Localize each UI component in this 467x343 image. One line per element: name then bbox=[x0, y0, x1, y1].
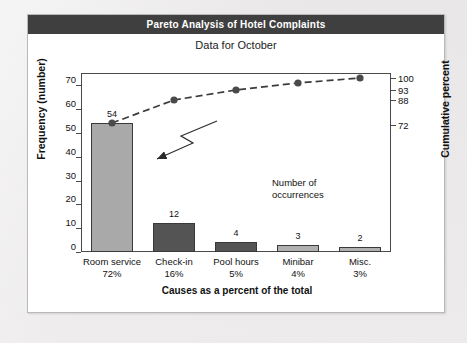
annotation-layer: Number of occurrences bbox=[81, 73, 391, 252]
y2-tick-label-72: 72 bbox=[398, 120, 426, 131]
y-axis-left-title: Frequency (number) bbox=[35, 49, 47, 169]
y-tick-label-70: 70 bbox=[52, 74, 76, 85]
y2-tick-label-100: 100 bbox=[398, 73, 426, 84]
y-tick-label-30: 30 bbox=[52, 170, 76, 181]
x-tick-pool-hours-name: Pool hours bbox=[205, 256, 267, 268]
y-tick-label-0: 0 bbox=[52, 241, 76, 252]
y-tick-label-40: 40 bbox=[52, 146, 76, 157]
x-tick-room-service: Room service 72% bbox=[81, 256, 143, 280]
x-axis-title: Causes as a percent of the total bbox=[28, 285, 446, 296]
x-tick-minibar: Minibar 4% bbox=[267, 256, 329, 280]
x-tick-pool-hours: Pool hours 5% bbox=[205, 256, 267, 280]
y2-tick-mark-72 bbox=[391, 125, 396, 126]
y-tick-label-20: 20 bbox=[52, 193, 76, 204]
chart-card: Pareto Analysis of Hotel Complaints Data… bbox=[27, 14, 445, 313]
y-tick-label-60: 60 bbox=[52, 98, 76, 109]
plot-area: Frequency (number) Cumulative percent 0 … bbox=[28, 15, 446, 314]
x-tick-check-in-name: Check-in bbox=[143, 256, 205, 268]
y-axis-right-title: Cumulative percent bbox=[439, 44, 451, 174]
annotation-label: Number of occurrences bbox=[272, 177, 324, 201]
x-tick-misc-pct: 3% bbox=[329, 268, 391, 280]
x-tick-check-in: Check-in 16% bbox=[143, 256, 205, 280]
annotation-label-line2: occurrences bbox=[272, 189, 324, 201]
x-tick-misc-name: Misc. bbox=[329, 256, 391, 268]
y-tick-label-10: 10 bbox=[52, 217, 76, 228]
y2-tick-mark-88 bbox=[391, 100, 396, 101]
y-tick-mark-0 bbox=[76, 252, 81, 253]
y2-tick-mark-93 bbox=[391, 90, 396, 91]
x-tick-minibar-name: Minibar bbox=[267, 256, 329, 268]
y-tick-label-50: 50 bbox=[52, 122, 76, 133]
x-tick-room-service-pct: 72% bbox=[81, 268, 143, 280]
x-tick-minibar-pct: 4% bbox=[267, 268, 329, 280]
annotation-label-line1: Number of bbox=[272, 177, 324, 189]
x-tick-check-in-pct: 16% bbox=[143, 268, 205, 280]
x-tick-room-service-name: Room service bbox=[81, 256, 143, 268]
annotation-arrow bbox=[157, 121, 217, 159]
x-tick-misc: Misc. 3% bbox=[329, 256, 391, 280]
y2-tick-label-88: 88 bbox=[398, 95, 426, 106]
y2-tick-mark-100 bbox=[391, 78, 396, 79]
x-tick-pool-hours-pct: 5% bbox=[205, 268, 267, 280]
